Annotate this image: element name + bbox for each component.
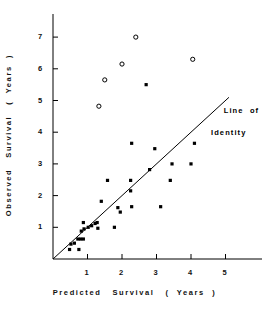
data-point-filled: [119, 210, 122, 213]
y-tick-label: 7: [38, 32, 42, 41]
data-point-filled: [68, 248, 71, 251]
y-axis-title: Observed Survival ( Years ): [0, 0, 16, 270]
data-point-filled: [169, 179, 172, 182]
y-tick-label: 3: [38, 159, 42, 168]
data-point-filled: [106, 179, 109, 182]
line-of-identity-annotation: Line of Identity: [211, 94, 259, 160]
data-point-filled: [82, 237, 85, 240]
identity-line-segment: [53, 97, 229, 259]
axis-ticks: [53, 37, 226, 259]
line-of-identity-annotation-line1: Line of: [224, 106, 259, 115]
data-point-filled: [113, 226, 116, 229]
y-tick-label: 2: [38, 191, 42, 200]
data-point-filled: [90, 224, 93, 227]
data-point-filled: [100, 200, 103, 203]
data-points: [68, 35, 196, 251]
x-tick-label: 4: [188, 268, 192, 277]
data-point-open: [97, 104, 101, 108]
data-point-filled: [129, 179, 132, 182]
data-point-filled: [170, 162, 173, 165]
data-point-filled: [129, 189, 132, 192]
data-point-filled: [79, 237, 82, 240]
data-point-filled: [76, 237, 79, 240]
data-point-filled: [189, 162, 192, 165]
data-point-open: [191, 57, 195, 61]
data-point-filled: [80, 230, 83, 233]
x-tick-label: 5: [223, 268, 227, 277]
x-tick-label: 3: [154, 268, 158, 277]
y-tick-label: 6: [38, 64, 42, 73]
data-point-open: [120, 62, 124, 66]
y-axis-title-text: Observed Survival ( Years ): [4, 54, 13, 216]
data-point-filled: [87, 226, 90, 229]
data-point-open: [103, 78, 107, 82]
data-point-filled: [193, 142, 196, 145]
data-point-filled: [96, 227, 99, 230]
y-tick-label: 1: [38, 222, 42, 231]
data-point-filled: [82, 227, 85, 230]
data-point-filled: [73, 242, 76, 245]
data-point-filled: [148, 168, 151, 171]
data-point-filled: [130, 205, 133, 208]
data-point-filled: [159, 205, 162, 208]
data-point-filled: [82, 221, 85, 224]
x-tick-label: 1: [85, 268, 89, 277]
data-point-filled: [145, 83, 148, 86]
data-point-open: [134, 35, 138, 39]
data-point-filled: [130, 142, 133, 145]
x-axis-title: Predicted Survival ( Years ): [0, 288, 269, 297]
scatter-plot-figure: Line of Identity Predicted Survival ( Ye…: [0, 0, 269, 309]
y-tick-label: 5: [38, 96, 42, 105]
data-point-filled: [69, 243, 72, 246]
data-point-filled: [96, 221, 99, 224]
data-point-filled: [77, 248, 80, 251]
data-point-filled: [153, 147, 156, 150]
y-tick-label: 4: [38, 127, 42, 136]
x-tick-label: 2: [119, 268, 123, 277]
data-point-filled: [116, 206, 119, 209]
line-of-identity-annotation-line2: Identity: [211, 127, 259, 138]
line-of-identity-line: [53, 97, 229, 259]
